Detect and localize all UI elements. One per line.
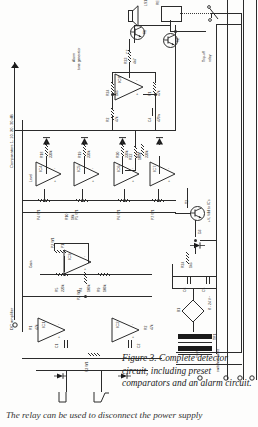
wire-ic8-r2 <box>155 94 156 109</box>
wire-t3-b <box>195 246 196 254</box>
wire-ic8-out <box>129 72 130 78</box>
section-label-alarm-2: tone generator <box>78 47 82 70</box>
resistor-r1-ref: R1 <box>30 326 34 330</box>
bus-ground-top <box>14 130 176 131</box>
svg-text:-: - <box>136 77 138 82</box>
svg-text:IC7: IC7 <box>152 165 157 172</box>
svg-text:+: + <box>136 91 139 96</box>
capacitor-c2-ref: C2 <box>138 344 142 348</box>
preset-p2-symbol <box>88 352 100 357</box>
page-rule-right-2 <box>243 0 244 380</box>
wire-top-e <box>211 13 241 14</box>
bus-comparator-inputs <box>22 212 176 213</box>
svg-text:+: + <box>132 179 134 183</box>
resistor-r10-ref: R10 <box>66 214 70 220</box>
wire-c2-out <box>84 156 85 174</box>
wire-c1-out <box>46 156 47 174</box>
resistor-r2-value: 47k <box>151 324 155 330</box>
wire-top-g <box>216 24 241 25</box>
section-label-trip-2: relay <box>209 54 213 62</box>
section-label-comparators: Comparators 1. 10. 20. 30 dB <box>10 114 14 168</box>
page-rule-right-3 <box>256 0 257 380</box>
figure-page: Comparators 1. 10. 20. 30 dB DC amplifie… <box>0 0 258 427</box>
preset-p2-label: P2 W1 <box>78 290 82 300</box>
preset-p1-symbol <box>54 249 66 254</box>
resistor-r20-ref: R20 <box>117 152 121 158</box>
relay-coil-box <box>161 6 182 22</box>
label-supply-to-ics: +V, Vdd to IC's <box>208 199 212 222</box>
resistor-r21-value: 330k <box>146 151 150 159</box>
wire-p5-w <box>82 189 83 199</box>
resistor-r16-value: 47k <box>158 90 162 96</box>
node-ref-3 <box>123 199 126 202</box>
figure-caption: Figure 3. Complete detector circuit, inc… <box>122 352 254 390</box>
resistor-r9-ref: R9 <box>98 288 102 292</box>
wire-c4-out <box>159 156 160 174</box>
svg-text:+: + <box>58 335 60 339</box>
capacitor-c4-symbol <box>152 108 156 116</box>
node-t3-1 <box>194 239 197 242</box>
resistor-r2-ref: R2 <box>145 326 149 330</box>
svg-text:IC5: IC5 <box>76 165 81 172</box>
resistor-r22-ref: R22 <box>130 154 134 160</box>
node-ref-4 <box>157 199 160 202</box>
preset-p1-ref: P1 <box>62 244 66 248</box>
wire-r23-b <box>129 62 130 72</box>
wire-t3-e <box>200 240 216 241</box>
wire-ic8-l3 <box>112 116 113 130</box>
resistor-r22-value: 100k <box>139 153 143 161</box>
svg-text:+: + <box>84 267 86 271</box>
resistor-r17-ref: R2 <box>107 118 111 122</box>
bridge-ref: B1 <box>178 308 182 312</box>
svg-text:IC3: IC3 <box>67 253 72 260</box>
resistor-r15-ref: R24 <box>107 90 111 96</box>
wire-c3-drop <box>122 141 123 145</box>
bus-gain-a <box>40 274 152 275</box>
bus-gain-b <box>22 296 152 297</box>
opamp-ic5: IC5 - + <box>72 160 102 188</box>
caption-line-1: Figure 3. Complete detector <box>122 352 254 365</box>
resistor-r23-value: 4k7 <box>134 58 138 64</box>
wire-p6-w <box>124 189 125 199</box>
following-body-text: The relay can be used to disconnect the … <box>6 410 256 420</box>
wire-ic8-top <box>112 72 156 73</box>
wire-t3-d <box>175 213 191 214</box>
ground-symbol <box>9 58 21 76</box>
resistor-r18-value: 330k <box>50 151 54 159</box>
svg-text:+: + <box>54 179 56 183</box>
page-rule-right-1 <box>227 0 228 380</box>
svg-text:IC2: IC2 <box>115 321 120 328</box>
opamp-ic8: IC8 - + <box>113 72 147 102</box>
ground-symbol-2 <box>9 316 21 334</box>
svg-text:+: + <box>92 179 94 183</box>
resistor-r10-value: 10k <box>72 214 76 220</box>
wire-b1-a <box>193 288 194 300</box>
resistor-r18-ref: R18 <box>41 152 45 158</box>
svg-text:+: + <box>168 179 170 183</box>
wire-psu-c <box>172 264 173 288</box>
wire-c3-out <box>122 156 123 174</box>
wire-ic8-r1 <box>155 72 156 83</box>
caption-line-3: comparators and an alarm circuit. <box>122 377 254 390</box>
wire-r22-c <box>125 170 136 171</box>
svg-text:-: - <box>132 322 134 326</box>
opamp-ic6: IC6 - + <box>112 160 142 188</box>
speaker-ref: LS1 <box>145 0 149 6</box>
wire-in-1 <box>66 370 67 392</box>
node-gain-1 <box>63 273 66 276</box>
node-ic8-a <box>111 93 114 96</box>
section-label-gain: Gain <box>30 261 34 268</box>
section-label-trip-1: Trip-off <box>203 51 207 62</box>
resistor-r19-value: 330k <box>88 151 92 159</box>
svg-text:-: - <box>168 166 170 170</box>
node-ref-2 <box>81 199 84 202</box>
wire-ic8-r3 <box>155 116 156 130</box>
wire-t3-a <box>195 220 196 237</box>
resistor-r6-ref: R5 <box>56 288 60 292</box>
svg-text:IC6: IC6 <box>116 165 121 172</box>
capacitor-c6-symbol <box>187 276 191 284</box>
wire-t3-c <box>187 188 188 208</box>
capacitor-c2-symbol <box>128 340 132 348</box>
transistor-t2-ref: T2 <box>177 38 181 42</box>
capacitor-c1-symbol <box>64 340 68 348</box>
